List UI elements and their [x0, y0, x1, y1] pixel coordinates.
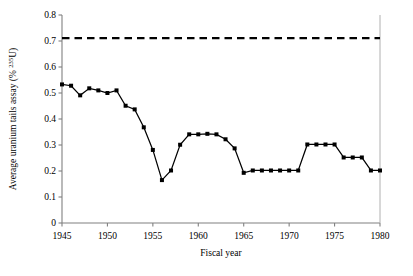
x-axis-title: Fiscal year	[200, 248, 242, 258]
data-point-marker	[233, 146, 237, 150]
x-axis-tick-label: 1980	[371, 231, 390, 241]
data-point-marker	[124, 104, 128, 108]
data-point-marker	[351, 155, 355, 159]
series-line-0	[62, 84, 380, 180]
data-point-marker	[78, 93, 82, 97]
data-point-marker	[196, 132, 200, 136]
data-point-marker	[323, 142, 327, 146]
y-axis-tick-label: 0.3	[44, 140, 56, 150]
data-point-marker	[105, 91, 109, 95]
x-axis-tick-label: 1975	[325, 231, 344, 241]
y-axis-tick-label: 0.6	[44, 62, 56, 72]
x-axis-tick-label: 1965	[234, 231, 253, 241]
data-point-marker	[151, 148, 155, 152]
x-axis-tick-label: 1955	[143, 231, 162, 241]
y-axis-tick-label: 0.7	[44, 36, 56, 46]
data-point-marker	[224, 137, 228, 141]
y-axis-tick-label: 0.8	[44, 10, 56, 20]
x-axis-tick-label: 1950	[98, 231, 117, 241]
y-axis-tick-label: 0.4	[44, 114, 56, 124]
data-point-marker	[278, 168, 282, 172]
data-point-marker	[160, 178, 164, 182]
line-chart: 00.10.20.30.40.50.60.70.8194519501955196…	[0, 0, 413, 276]
data-point-marker	[260, 168, 264, 172]
data-point-marker	[133, 107, 137, 111]
data-point-marker	[69, 84, 73, 88]
data-point-marker	[369, 168, 373, 172]
x-axis-tick-label: 1945	[53, 231, 72, 241]
data-point-marker	[60, 82, 64, 86]
data-point-marker	[342, 155, 346, 159]
data-point-marker	[314, 142, 318, 146]
x-axis-tick-label: 1970	[280, 231, 299, 241]
data-point-marker	[360, 155, 364, 159]
data-point-marker	[96, 88, 100, 92]
data-point-marker	[242, 171, 246, 175]
data-point-marker	[269, 168, 273, 172]
data-point-marker	[115, 88, 119, 92]
y-axis-tick-label: 0	[51, 218, 56, 228]
data-point-marker	[142, 125, 146, 129]
x-axis-tick-label: 1960	[189, 231, 208, 241]
data-point-marker	[178, 143, 182, 147]
y-axis-tick-label: 0.2	[44, 166, 56, 176]
data-point-marker	[187, 132, 191, 136]
data-point-marker	[251, 168, 255, 172]
y-axis-tick-label: 0.1	[44, 192, 56, 202]
data-point-marker	[333, 142, 337, 146]
data-point-marker	[287, 168, 291, 172]
y-axis-tick-label: 0.5	[44, 88, 56, 98]
data-point-marker	[169, 168, 173, 172]
data-point-marker	[205, 132, 209, 136]
data-point-marker	[214, 132, 218, 136]
y-axis-title: Average uranium tails assay (% 235U)	[7, 48, 19, 190]
data-point-marker	[296, 168, 300, 172]
chart-figure: 00.10.20.30.40.50.60.70.8194519501955196…	[0, 0, 413, 276]
data-point-marker	[87, 86, 91, 90]
data-point-marker	[305, 142, 309, 146]
data-point-marker	[378, 168, 382, 172]
